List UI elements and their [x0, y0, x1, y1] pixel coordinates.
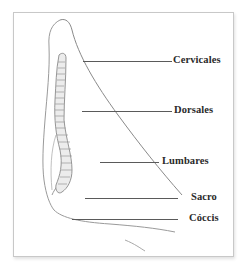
label-dorsales: Dorsales	[174, 104, 213, 115]
spine-illustration	[0, 0, 249, 269]
leader-line-dorsales	[82, 111, 172, 112]
leader-line-cervicales	[83, 61, 172, 62]
label-coccis: Cóccis	[189, 212, 219, 223]
label-lumbares: Lumbares	[162, 155, 209, 166]
body-outline-front	[60, 19, 182, 195]
lower-outline	[125, 240, 145, 251]
leader-line-sacro	[85, 198, 178, 199]
pelvis-outline	[54, 210, 175, 232]
inner-curve	[51, 135, 56, 190]
leader-line-coccis	[72, 219, 178, 220]
leader-line-lumbares	[100, 162, 159, 163]
label-cervicales: Cervicales	[173, 54, 221, 65]
label-sacro: Sacro	[191, 191, 217, 202]
